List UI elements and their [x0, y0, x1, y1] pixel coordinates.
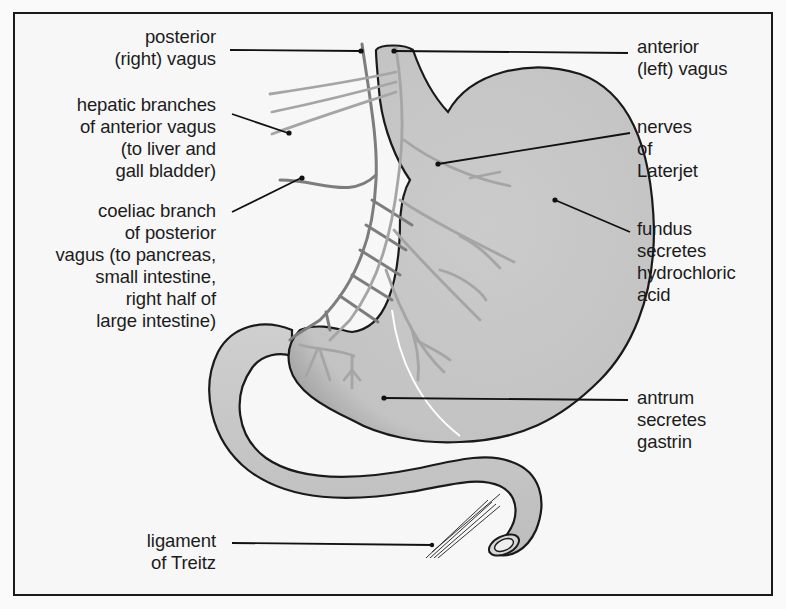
label-antrum: antrum secretes gastrin — [637, 387, 767, 453]
label-hepatic-branches: hepatic branches of anterior vagus (to l… — [20, 94, 216, 182]
label-nerves-of-laterjet: nerves of Laterjet — [637, 116, 767, 182]
label-anterior-vagus: anterior (left) vagus — [637, 36, 767, 80]
label-fundus: fundus secretes hydrochloric acid — [637, 218, 773, 306]
label-coeliac-branch: coeliac branch of posterior vagus (to pa… — [20, 200, 216, 332]
label-posterior-vagus: posterior (right) vagus — [40, 26, 216, 70]
diagram-canvas: posterior (right) vagus hepatic branches… — [0, 0, 786, 609]
label-ligament-of-treitz: ligament of Treitz — [40, 530, 216, 574]
